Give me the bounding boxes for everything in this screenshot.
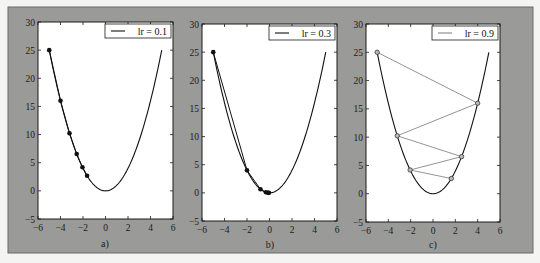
x-tick-label: −2 (78, 223, 88, 233)
y-tick-label: 30 (26, 18, 36, 28)
x-tick-label: −6 (197, 225, 207, 235)
x-tick-label: 4 (312, 225, 317, 235)
y-tick-label: −5 (189, 217, 199, 227)
data-point (375, 50, 379, 54)
x-tick-label: 0 (267, 225, 272, 235)
legend: lr = 0.3 (269, 26, 335, 40)
panel-caption: b) (266, 239, 274, 251)
x-tick-label: −6 (33, 223, 43, 233)
y-tick-label: 30 (354, 20, 364, 30)
data-point (395, 134, 399, 138)
x-tick-label: 2 (126, 223, 131, 233)
y-tick-label: 25 (354, 48, 364, 58)
x-tick-label: 2 (453, 226, 458, 236)
data-point (85, 173, 90, 178)
y-tick-label: 5 (30, 158, 35, 168)
y-tick-label: 25 (190, 48, 200, 58)
data-point (47, 48, 52, 53)
data-point (80, 165, 85, 170)
data-point (267, 191, 272, 196)
x-tick-label: −4 (383, 226, 393, 236)
x-tick-label: 6 (335, 225, 340, 235)
chart-panel-b: −6−4−20246−5051015202530lr = 0.3b) (189, 20, 340, 252)
y-tick-label: 0 (358, 189, 363, 199)
legend: lr = 0.1 (105, 24, 171, 38)
y-tick-label: 0 (30, 186, 35, 196)
data-point (58, 99, 63, 104)
data-point (475, 101, 479, 105)
legend-label: lr = 0.1 (138, 26, 167, 37)
y-tick-label: 20 (354, 76, 364, 86)
plot-area (366, 24, 500, 222)
y-tick-label: −5 (25, 215, 35, 225)
y-tick-label: −5 (353, 218, 363, 228)
data-point (74, 152, 79, 157)
legend: lr = 0.9 (432, 26, 498, 40)
y-tick-label: 10 (26, 130, 36, 140)
x-tick-label: 6 (171, 223, 176, 233)
y-tick-label: 25 (26, 46, 36, 56)
x-tick-label: −2 (406, 226, 416, 236)
legend-label: lr = 0.9 (465, 28, 494, 39)
y-tick-label: 0 (194, 188, 199, 198)
data-point (408, 168, 412, 172)
data-point (258, 187, 263, 192)
x-tick-label: −2 (242, 225, 252, 235)
data-point (459, 154, 463, 158)
data-point (245, 168, 250, 173)
x-tick-label: −4 (55, 223, 65, 233)
x-tick-label: 4 (148, 223, 153, 233)
data-point (67, 131, 72, 136)
plot-area (38, 22, 173, 219)
y-tick-label: 5 (358, 161, 363, 171)
data-point (211, 50, 216, 55)
panel-caption: c) (429, 239, 437, 251)
x-tick-label: 0 (103, 223, 108, 233)
x-tick-label: 2 (290, 225, 295, 235)
legend-label: lr = 0.3 (302, 28, 331, 39)
y-tick-label: 10 (354, 133, 364, 143)
y-tick-label: 20 (26, 74, 36, 84)
y-tick-label: 15 (26, 102, 36, 112)
y-tick-label: 15 (190, 104, 200, 114)
x-tick-label: −6 (361, 226, 371, 236)
x-tick-label: 4 (475, 226, 480, 236)
y-tick-label: 15 (354, 104, 364, 114)
data-point (449, 176, 453, 180)
y-tick-label: 5 (194, 160, 199, 170)
chart-panel-a: −6−4−20246−5051015202530lr = 0.1a) (25, 18, 176, 251)
y-tick-label: 20 (190, 76, 200, 86)
y-tick-label: 30 (190, 20, 200, 30)
x-tick-label: −4 (219, 225, 229, 235)
figure: −6−4−20246−5051015202530lr = 0.1a)−6−4−2… (0, 0, 540, 263)
chart-panel-c: −6−4−20246−5051015202530lr = 0.9c) (353, 20, 503, 252)
y-tick-label: 10 (190, 132, 200, 142)
x-tick-label: 0 (431, 226, 436, 236)
panel-caption: a) (101, 238, 109, 250)
x-tick-label: 6 (498, 226, 503, 236)
